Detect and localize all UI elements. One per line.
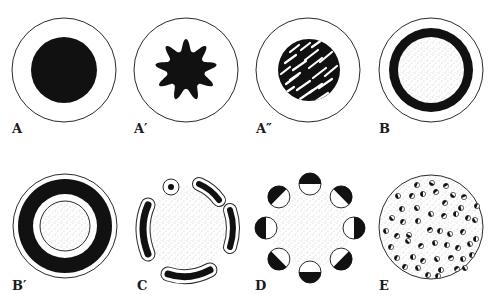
panel-label: A [11,121,23,136]
diagram-canvas: A A′ A″ B B′ [0,0,497,298]
panel-label: A′ [133,121,148,136]
panel-e: E [379,175,483,293]
panel-label: E [379,278,389,293]
panel-c: C [137,179,233,293]
panel-label: C [137,278,147,293]
panel-b: B [379,18,483,136]
stippled-area [380,176,482,278]
panel-label: D [255,278,266,293]
panel-a-prime: A′ [133,18,238,136]
panel-d: D [255,173,365,293]
panel-label: B′ [12,278,27,293]
small-dot [168,184,174,190]
stippled-core [398,37,464,103]
panel-a-double-prime: A″ [255,18,360,136]
panel-label: A″ [255,121,272,136]
panel-a: A [11,18,116,136]
solid-disc [31,37,97,103]
diagram-figure: A A′ A″ B B′ [0,0,497,298]
panel-b-prime: B′ [12,174,117,293]
panel-label: B [379,121,390,136]
star-shape [155,39,216,99]
stippled-core [40,201,90,251]
